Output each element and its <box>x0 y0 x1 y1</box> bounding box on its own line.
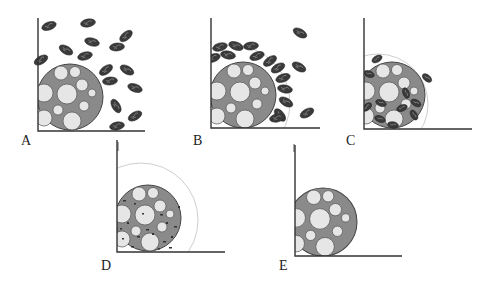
panel-label-c: C <box>346 134 355 148</box>
granule-body-e <box>287 188 357 256</box>
panel-d <box>84 140 225 277</box>
granule-body-b <box>208 62 276 128</box>
panel-label-e: E <box>279 259 288 273</box>
panel-label-a: A <box>21 134 31 148</box>
panel-label-d: D <box>101 259 111 273</box>
panel-label-b: B <box>193 134 202 148</box>
panel-a <box>33 18 145 151</box>
free-particles-b <box>291 26 316 120</box>
granule-body-a <box>35 64 103 130</box>
diagram-canvas <box>0 0 492 283</box>
granule-body-d <box>113 185 181 251</box>
panel-e <box>287 145 402 256</box>
